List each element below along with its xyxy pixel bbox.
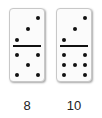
pip xyxy=(73,63,77,67)
pip xyxy=(83,53,87,57)
pip xyxy=(26,63,30,67)
pip xyxy=(62,73,66,77)
pip xyxy=(62,38,66,42)
pip xyxy=(83,16,87,20)
pip xyxy=(15,38,19,42)
pip xyxy=(62,63,66,67)
domino-divider xyxy=(60,45,88,47)
pip xyxy=(36,73,40,77)
domino-left-sum: 8 xyxy=(9,98,45,113)
domino-right xyxy=(56,8,92,82)
pip xyxy=(73,27,77,31)
domino-divider xyxy=(13,45,41,47)
pip xyxy=(83,63,87,67)
pip xyxy=(36,53,40,57)
domino-left xyxy=(9,8,45,82)
pip xyxy=(15,73,19,77)
pip xyxy=(15,53,19,57)
pip xyxy=(62,53,66,57)
pip xyxy=(83,73,87,77)
domino-right-sum: 10 xyxy=(56,98,92,113)
pip xyxy=(26,27,30,31)
pip xyxy=(36,16,40,20)
